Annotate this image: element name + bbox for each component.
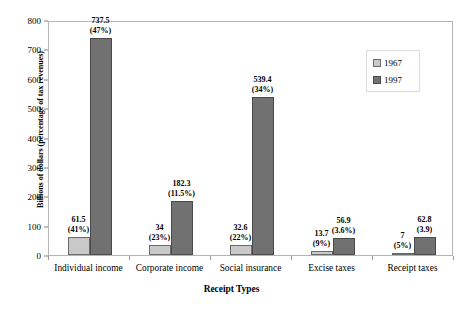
y-tick-label: 0 bbox=[37, 251, 42, 261]
bar-value: 62.8 bbox=[417, 215, 432, 225]
x-category-label: Receipt taxes bbox=[387, 263, 437, 273]
y-tick-label: 500 bbox=[28, 104, 42, 114]
bar-percent: (5%) bbox=[394, 241, 411, 251]
bar-1967-receipt-taxes[interactable] bbox=[392, 253, 414, 255]
bar-chart: Billions of dollars (percentage of tax r… bbox=[0, 0, 463, 314]
x-category-label: Corporate income bbox=[136, 263, 203, 273]
y-tick-label: 200 bbox=[28, 192, 42, 202]
legend-swatch-1997 bbox=[373, 76, 381, 84]
legend-item-1967[interactable]: 1967 bbox=[373, 58, 402, 68]
x-tick-mark bbox=[48, 256, 49, 260]
y-tick-label: 400 bbox=[28, 134, 42, 144]
bar-percent: (3.9) bbox=[417, 225, 432, 235]
x-tick-mark bbox=[453, 256, 454, 260]
bar-value-label: 7(5%) bbox=[394, 231, 411, 251]
bar-1997-receipt-taxes[interactable] bbox=[414, 237, 436, 255]
x-category-label: Individual income bbox=[54, 263, 122, 273]
x-axis-title: Receipt Types bbox=[0, 284, 463, 294]
chart-legend: 1967 1997 bbox=[366, 50, 420, 92]
legend-label-1997: 1997 bbox=[384, 75, 402, 85]
x-category-label: Excise taxes bbox=[308, 263, 355, 273]
x-tick-mark bbox=[129, 256, 130, 260]
bar-value-label: 62.8(3.9) bbox=[417, 215, 432, 235]
x-tick-mark bbox=[210, 256, 211, 260]
x-tick-mark bbox=[372, 256, 373, 260]
bar-value: 7 bbox=[394, 231, 411, 241]
legend-item-1997[interactable]: 1997 bbox=[373, 75, 402, 85]
y-tick-label: 800 bbox=[28, 16, 42, 26]
x-tick-mark bbox=[291, 256, 292, 260]
y-axis-ticks: 0100200300400500600700800 bbox=[0, 0, 44, 314]
y-tick-label: 100 bbox=[28, 222, 42, 232]
x-category-label: Social insurance bbox=[220, 263, 282, 273]
legend-label-1967: 1967 bbox=[384, 58, 402, 68]
y-tick-label: 600 bbox=[28, 75, 42, 85]
legend-swatch-1967 bbox=[373, 59, 381, 67]
y-tick-label: 300 bbox=[28, 163, 42, 173]
y-tick-label: 700 bbox=[28, 45, 42, 55]
